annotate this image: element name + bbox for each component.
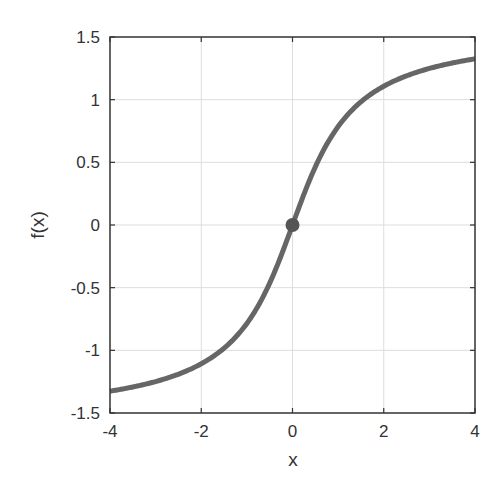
x-tick-label: 2 <box>379 422 388 441</box>
y-tick-label: 0.5 <box>76 153 100 172</box>
y-tick-label: -1.5 <box>71 404 100 423</box>
origin-marker <box>286 218 300 232</box>
y-tick-label: 1.5 <box>76 28 100 47</box>
chart: -4-2024 -1.5-1-0.500.511.5 x f(x) <box>0 0 500 493</box>
x-tick-label: 0 <box>288 422 297 441</box>
y-tick-label: -1 <box>85 341 100 360</box>
x-axis-label: x <box>288 449 298 470</box>
x-tick-labels: -4-2024 <box>102 422 479 441</box>
x-tick-label: 4 <box>470 422 479 441</box>
y-tick-labels: -1.5-1-0.500.511.5 <box>71 28 100 423</box>
x-tick-label: -2 <box>194 422 209 441</box>
y-tick-label: 1 <box>91 91 100 110</box>
y-tick-label: -0.5 <box>71 279 100 298</box>
y-tick-label: 0 <box>91 216 100 235</box>
x-tick-label: -4 <box>102 422 117 441</box>
y-axis-label: f(x) <box>27 211 48 238</box>
